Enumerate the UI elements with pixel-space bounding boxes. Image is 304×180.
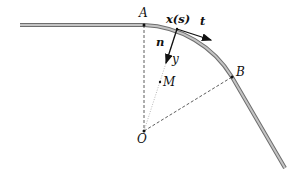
radius-OB bbox=[144, 77, 232, 131]
beam-curve bbox=[20, 25, 285, 168]
label-y: y bbox=[171, 52, 179, 66]
point-B bbox=[231, 76, 234, 79]
beam-diagram: A B O M x(s) t n y bbox=[0, 0, 304, 180]
point-xs bbox=[176, 28, 178, 30]
label-M: M bbox=[162, 75, 176, 89]
label-xs: x(s) bbox=[165, 12, 190, 26]
point-M bbox=[159, 81, 161, 83]
label-A: A bbox=[138, 6, 148, 20]
label-t: t bbox=[200, 14, 206, 28]
label-n: n bbox=[156, 35, 164, 49]
label-O: O bbox=[137, 132, 147, 146]
point-A bbox=[143, 24, 146, 27]
label-B: B bbox=[235, 65, 245, 79]
